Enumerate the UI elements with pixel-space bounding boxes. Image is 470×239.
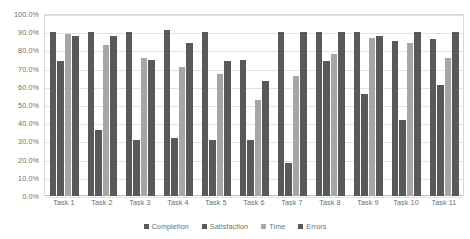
bar-group [159, 14, 197, 196]
legend-swatch-icon [144, 224, 149, 229]
y-axis-tick-label: 0.0% [22, 192, 39, 201]
legend-swatch-icon [202, 224, 207, 229]
bar[interactable] [50, 32, 57, 196]
x-axis-tick-label: Task 5 [197, 198, 235, 207]
bar[interactable] [240, 60, 247, 197]
y-axis-tick-label: 90.0% [18, 28, 39, 37]
x-axis-tick-label: Task 2 [83, 198, 121, 207]
x-axis-tick-label: Task 1 [45, 198, 83, 207]
bar[interactable] [331, 54, 338, 196]
bar[interactable] [217, 74, 224, 196]
bar[interactable] [369, 38, 376, 196]
bar[interactable] [285, 163, 292, 196]
bar[interactable] [452, 32, 459, 196]
y-axis-tick-label: 30.0% [18, 137, 39, 146]
y-axis-tick-label: 40.0% [18, 119, 39, 128]
bar[interactable] [361, 94, 368, 196]
bar[interactable] [133, 140, 140, 196]
bar[interactable] [148, 60, 155, 197]
y-axis-tick-label: 60.0% [18, 82, 39, 91]
x-axis-tick-label: Task 4 [159, 198, 197, 207]
x-axis: Task 1Task 2Task 3Task 4Task 5Task 6Task… [45, 198, 463, 207]
bar[interactable] [224, 61, 231, 196]
bar[interactable] [407, 43, 414, 196]
bar[interactable] [376, 36, 383, 196]
legend-item[interactable]: Errors [298, 222, 326, 231]
bar[interactable] [437, 85, 444, 196]
bar[interactable] [186, 43, 193, 196]
bar-chart: 100.0%90.0%80.0%70.0%60.0%50.0%40.0%30.0… [0, 0, 470, 239]
bar[interactable] [88, 32, 95, 196]
x-axis-tick-label: Task 7 [273, 198, 311, 207]
bar-group [83, 14, 121, 196]
legend-item[interactable]: Time [261, 222, 285, 231]
legend-swatch-icon [261, 224, 266, 229]
bar[interactable] [202, 32, 209, 196]
bar[interactable] [110, 36, 117, 196]
bar[interactable] [338, 32, 345, 196]
bar[interactable] [247, 140, 254, 196]
bar[interactable] [209, 140, 216, 196]
bar-group [273, 14, 311, 196]
bar[interactable] [164, 30, 171, 196]
y-axis-tick-label: 20.0% [18, 155, 39, 164]
bar-group [197, 14, 235, 196]
y-axis-tick-label: 80.0% [18, 46, 39, 55]
x-axis-tick-label: Task 3 [121, 198, 159, 207]
bar-group [311, 14, 349, 196]
bar[interactable] [141, 58, 148, 196]
legend-label: Satisfaction [210, 222, 248, 231]
bar[interactable] [399, 120, 406, 196]
legend-item[interactable]: Completion [144, 222, 189, 231]
bar[interactable] [293, 76, 300, 196]
y-axis-tick-label: 100.0% [14, 10, 39, 19]
y-axis-tick-label: 70.0% [18, 64, 39, 73]
bar[interactable] [316, 32, 323, 196]
x-axis-tick-label: Task 11 [425, 198, 463, 207]
bar[interactable] [65, 34, 72, 196]
y-axis-tick-label: 10.0% [18, 173, 39, 182]
bar-group [349, 14, 387, 196]
bar[interactable] [179, 67, 186, 196]
bar-group [387, 14, 425, 196]
x-axis-tick-label: Task 10 [387, 198, 425, 207]
y-axis-tick-label: 50.0% [18, 101, 39, 110]
bar-group [235, 14, 273, 196]
bar[interactable] [414, 32, 421, 196]
x-axis-tick-label: Task 9 [349, 198, 387, 207]
legend-swatch-icon [298, 224, 303, 229]
bar[interactable] [392, 41, 399, 196]
bar[interactable] [354, 32, 361, 196]
bar[interactable] [95, 130, 102, 196]
bar[interactable] [126, 32, 133, 196]
bar[interactable] [430, 39, 437, 196]
bar[interactable] [300, 32, 307, 196]
bar-group [425, 14, 463, 196]
bar[interactable] [72, 36, 79, 196]
bar[interactable] [323, 61, 330, 196]
bar[interactable] [278, 32, 285, 196]
bar[interactable] [103, 45, 110, 196]
y-axis: 100.0%90.0%80.0%70.0%60.0%50.0%40.0%30.0… [0, 0, 44, 196]
bar-group [121, 14, 159, 196]
x-axis-tick-label: Task 6 [235, 198, 273, 207]
chart-legend: CompletionSatisfactionTimeErrors [0, 222, 470, 231]
bar[interactable] [445, 58, 452, 196]
bars-layer [45, 14, 463, 196]
bar[interactable] [255, 100, 262, 196]
legend-label: Time [269, 222, 285, 231]
legend-label: Errors [306, 222, 326, 231]
bar[interactable] [171, 138, 178, 196]
x-axis-tick-label: Task 8 [311, 198, 349, 207]
bar[interactable] [262, 81, 269, 196]
legend-item[interactable]: Satisfaction [202, 222, 248, 231]
bar-group [45, 14, 83, 196]
legend-label: Completion [152, 222, 189, 231]
bar[interactable] [57, 61, 64, 196]
